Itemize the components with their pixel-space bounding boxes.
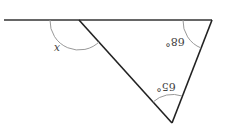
angle-label-exterior: x: [53, 42, 60, 55]
triangle-diagram: 68° 65° x: [0, 0, 226, 133]
triangle-side-left: [79, 20, 172, 123]
angle-label-top-right: 68°: [165, 35, 185, 48]
angle-label-bottom: 65°: [156, 80, 176, 93]
angle-arc-bottom: [153, 94, 182, 102]
